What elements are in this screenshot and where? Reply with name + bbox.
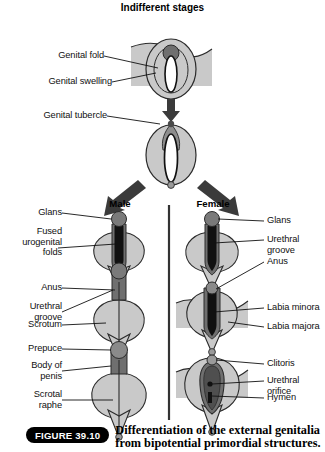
- column-heading-male: Male: [95, 198, 145, 209]
- leader-male-anus: [62, 288, 115, 290]
- leader-male-glans: [62, 213, 111, 219]
- label-male-glans: Glans: [12, 207, 62, 218]
- female-anus-2: [209, 349, 216, 356]
- label-male-prepuce: Prepuce: [4, 343, 62, 354]
- label-male-body-of-penis: Body of penis: [4, 360, 62, 381]
- label-male-fused-urogenital-folds: Fused urogenital folds: [2, 226, 62, 258]
- leader-male-prepuce: [62, 349, 111, 350]
- label-female-anus: Anus: [267, 256, 325, 267]
- leader-female-glans: [218, 219, 264, 221]
- label-female-clitoris: Clitoris: [267, 358, 325, 369]
- caption-body: Differentiation of the external genitali…: [115, 424, 320, 451]
- female-vestibule-2: [208, 290, 217, 336]
- female-urethral-groove-1: [208, 226, 217, 271]
- label-genital-swelling: Genital swelling: [0, 76, 112, 87]
- caption-line-1: Differentiation of the external genitali…: [115, 424, 320, 437]
- urethral-groove-slit-2: [165, 134, 178, 182]
- female-stage-2-diagram: [176, 282, 248, 355]
- female-urethral-orifice-3: [207, 381, 212, 386]
- label-female-urethral-groove: Urethral groove: [267, 234, 325, 255]
- label-female-hymen: Hymen: [267, 392, 325, 403]
- label-genital-fold: Genital fold: [14, 50, 104, 61]
- figure-container: Indifferent stages: [0, 0, 325, 452]
- male-glans-1: [112, 212, 127, 227]
- female-glans-1: [205, 212, 220, 227]
- figure-caption: FIGURE 39.10 Differentiation of the exte…: [26, 424, 325, 451]
- label-female-labia-minora: Labia minora: [267, 302, 325, 313]
- figure-number-badge: FIGURE 39.10: [26, 427, 109, 443]
- male-glans-2: [111, 263, 127, 279]
- label-male-scrotum: Scrotum: [2, 319, 62, 330]
- column-heading-female: Female: [185, 198, 241, 209]
- leader-male-body-of-penis: [62, 366, 111, 371]
- label-male-anus: Anus: [12, 282, 62, 293]
- label-male-scrotal-raphe: Scrotal raphe: [4, 389, 62, 410]
- leader-genital-tubercle: [107, 116, 160, 124]
- label-female-labia-majora: Labia majora: [267, 321, 325, 332]
- urethral-groove-slit: [165, 56, 177, 92]
- tubercle-tip: [168, 121, 174, 127]
- label-genital-tubercle: Genital tubercle: [0, 110, 107, 121]
- female-hymen-3: [208, 392, 212, 403]
- indifferent-stage-1-diagram: [131, 39, 212, 122]
- female-glans-2: [206, 282, 218, 294]
- male-prepuce-3: [111, 342, 128, 359]
- label-female-glans: Glans: [267, 215, 325, 226]
- anus-shape-2: [168, 182, 175, 189]
- caption-line-2: from bipotential primordial structures.: [115, 437, 320, 450]
- arrow-down-icon: [162, 99, 180, 122]
- female-clitoris-3: [207, 355, 217, 365]
